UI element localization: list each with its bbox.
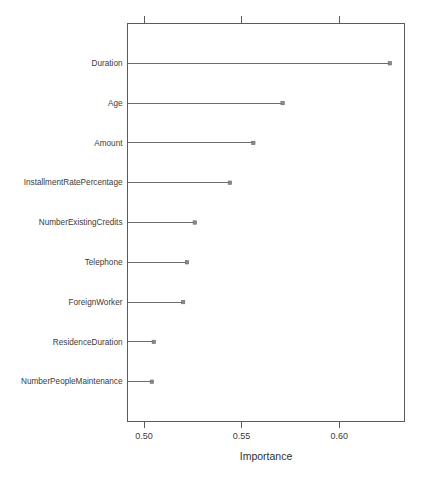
data-point-0 <box>388 62 391 65</box>
data-point-7 <box>152 340 155 343</box>
data-point-3 <box>228 181 231 184</box>
x-tick-label-1: 0.55 <box>233 431 251 441</box>
data-point-1 <box>281 101 284 104</box>
category-label-6: ForeignWorker <box>69 298 123 307</box>
category-label-2: Amount <box>94 139 123 148</box>
category-label-5: Telephone <box>85 258 123 267</box>
data-point-8 <box>150 380 153 383</box>
x-tick-label-2: 0.60 <box>330 431 348 441</box>
category-label-4: NumberExistingCredits <box>39 218 123 227</box>
importance-chart: DurationAgeAmountInstallmentRatePercenta… <box>0 0 426 479</box>
data-point-4 <box>193 221 196 224</box>
category-label-3: InstallmentRatePercentage <box>24 178 123 187</box>
category-label-0: Duration <box>92 59 123 68</box>
data-point-5 <box>185 261 188 264</box>
x-axis-title: Importance <box>240 450 293 462</box>
chart-svg: DurationAgeAmountInstallmentRatePercenta… <box>0 0 426 479</box>
chart-background <box>0 0 426 479</box>
data-point-6 <box>181 300 184 303</box>
category-label-8: NumberPeopleMaintenance <box>21 377 123 386</box>
x-tick-label-0: 0.50 <box>135 431 153 441</box>
category-label-1: Age <box>108 99 123 108</box>
category-label-7: ResidenceDuration <box>53 338 123 347</box>
data-point-2 <box>252 141 255 144</box>
